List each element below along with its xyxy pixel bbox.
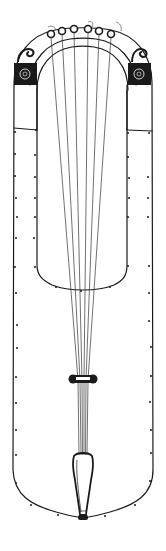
tailpiece bbox=[73, 453, 93, 515]
outer-body-outline bbox=[13, 28, 153, 518]
left-scroll-ornament bbox=[14, 49, 37, 85]
peg-3 bbox=[71, 26, 78, 33]
string-3 bbox=[74, 32, 82, 380]
string-6 bbox=[88, 37, 111, 380]
crwth-illustration: crwth line drawing bbox=[0, 0, 166, 551]
drawing-canvas bbox=[0, 0, 166, 551]
peg-2 bbox=[59, 28, 66, 35]
yoke-arch-inner bbox=[37, 46, 128, 90]
right-panel-line bbox=[127, 130, 152, 131]
right-scroll-ornament bbox=[128, 49, 151, 85]
peg-6 bbox=[108, 31, 115, 38]
end-button bbox=[78, 515, 88, 520]
hand-opening bbox=[37, 90, 127, 290]
bridge bbox=[69, 375, 98, 384]
strings bbox=[51, 32, 111, 455]
rivet-dots bbox=[14, 129, 152, 517]
peg-4 bbox=[85, 26, 92, 33]
peg-5 bbox=[96, 28, 103, 35]
string-5 bbox=[86, 34, 99, 380]
left-panel-line bbox=[14, 128, 37, 130]
peg-1 bbox=[48, 31, 55, 38]
string-4 bbox=[84, 32, 88, 380]
